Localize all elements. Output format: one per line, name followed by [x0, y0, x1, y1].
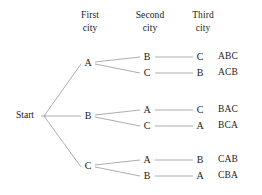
result-label-cba: CBA: [218, 171, 238, 181]
node-second-city-a-0: B: [144, 52, 151, 62]
node-first-city-c: C: [85, 161, 92, 171]
node-second-city-b-0: A: [143, 105, 150, 115]
tree-diagram: First city Second city Third city Start …: [0, 0, 262, 195]
edge-C-to-B2: [95, 167, 140, 176]
edge-B-to-C2: [95, 117, 140, 126]
node-third-city-a-1: B: [197, 68, 204, 78]
node-third-city-a-0: C: [197, 52, 204, 62]
node-second-city-c-0: A: [143, 155, 150, 165]
edge-start-to-C: [44, 116, 81, 167]
node-third-city-b-1: A: [196, 121, 203, 131]
tree-edges: [0, 0, 262, 195]
edge-start-to-A: [44, 64, 81, 116]
edge-A-to-C2: [95, 64, 140, 73]
node-first-city-a: A: [84, 58, 91, 68]
edge-B-to-A2: [95, 110, 140, 115]
column-header-second-city-line1: Second: [136, 11, 165, 21]
node-start: Start: [16, 111, 34, 121]
node-third-city-b-0: C: [197, 105, 204, 115]
node-second-city-c-1: B: [144, 171, 151, 181]
result-label-abc: ABC: [218, 52, 238, 62]
result-label-bca: BCA: [218, 121, 238, 131]
node-second-city-b-1: C: [144, 121, 151, 131]
node-third-city-c-1: A: [196, 171, 203, 181]
edge-A-to-B2: [95, 57, 140, 62]
result-label-cab: CAB: [218, 155, 238, 165]
column-header-second-city-line2: city: [143, 24, 158, 34]
node-second-city-a-1: C: [144, 68, 151, 78]
result-label-acb: ACB: [218, 68, 238, 78]
column-header-first-city-line2: city: [83, 24, 98, 34]
column-header-third-city-line2: city: [196, 24, 211, 34]
node-first-city-b: B: [85, 111, 92, 121]
edge-C-to-A2: [95, 160, 140, 165]
result-label-bac: BAC: [218, 105, 238, 115]
column-header-first-city-line1: First: [81, 11, 99, 21]
node-third-city-c-0: B: [197, 155, 204, 165]
column-header-third-city-line1: Third: [192, 11, 214, 21]
